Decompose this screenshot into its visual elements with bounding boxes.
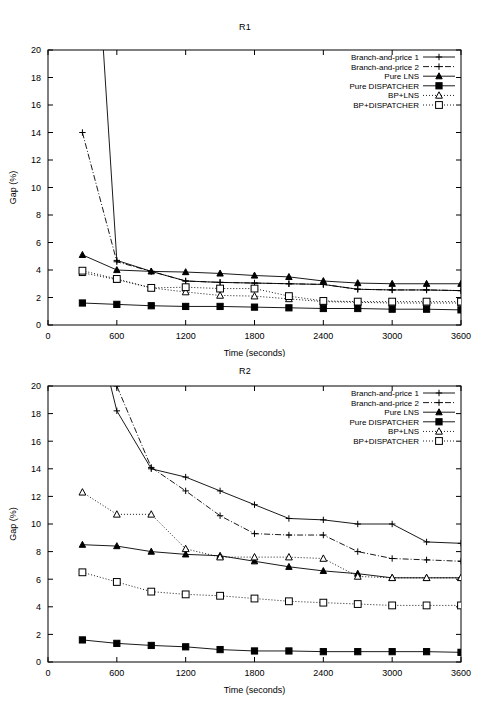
legend-label-3: Pure DISPATCHER	[350, 418, 420, 427]
series-line	[82, 492, 461, 578]
series-2	[79, 251, 464, 286]
y-tick-label: 20	[31, 45, 41, 55]
legend-label-1: Branch-and-price 2	[351, 63, 420, 72]
x-tick-label: 600	[109, 331, 124, 341]
chart-panel-r2: R2 0246810121416182006001200180024003000…	[0, 357, 490, 714]
legend: Branch-and-price 1Branch-and-price 2Pure…	[350, 389, 456, 446]
legend-label-4: BP+LNS	[388, 427, 419, 436]
x-tick-label: 600	[109, 668, 124, 678]
x-tick-label: 1200	[176, 668, 196, 678]
x-tick-label: 3600	[451, 331, 471, 341]
y-tick-label: 8	[36, 210, 41, 220]
y-tick-label: 8	[36, 547, 41, 557]
x-tick-label: 1800	[244, 668, 264, 678]
legend-label-0: Branch-and-price 1	[351, 389, 420, 398]
y-tick-label: 16	[31, 437, 41, 447]
series-5	[79, 569, 464, 609]
series-line	[82, 271, 461, 302]
chart-svg-r1: 0246810121416182006001200180024003000360…	[0, 0, 490, 357]
x-tick-label: 2400	[313, 331, 333, 341]
x-tick-label: 0	[45, 331, 50, 341]
y-tick-label: 10	[31, 519, 41, 529]
legend-label-1: Branch-and-price 2	[351, 399, 420, 408]
x-axis-label: Time (seconds)	[224, 348, 286, 357]
series-line	[82, 640, 461, 652]
x-tick-label: 0	[45, 668, 50, 678]
y-axis-label: Gap (%)	[8, 507, 18, 541]
y-tick-label: 20	[31, 381, 41, 391]
series-line	[82, 303, 461, 310]
series-2	[79, 541, 464, 580]
x-tick-label: 2400	[313, 668, 333, 678]
series-0	[101, 357, 464, 547]
legend-label-5: BP+DISPATCHER	[353, 437, 419, 446]
series-line	[82, 273, 461, 303]
y-tick-label: 2	[36, 293, 41, 303]
x-tick-label: 3000	[382, 331, 402, 341]
x-axis-label: Time (seconds)	[224, 685, 286, 695]
y-axis-label: Gap (%)	[8, 171, 18, 205]
series-4	[79, 269, 464, 306]
series-line	[101, 357, 461, 561]
y-tick-label: 6	[36, 575, 41, 585]
y-tick-label: 14	[31, 464, 41, 474]
legend-label-0: Branch-and-price 1	[351, 53, 420, 62]
y-tick-label: 12	[31, 492, 41, 502]
y-tick-label: 14	[31, 128, 41, 138]
plot-area-r1: 0246810121416182006001200180024003000360…	[0, 0, 490, 357]
series-line	[82, 572, 461, 605]
figure-root: R1 0246810121416182006001200180024003000…	[0, 0, 490, 714]
x-tick-label: 1800	[244, 331, 264, 341]
series-3	[79, 637, 464, 656]
series-line	[82, 545, 461, 578]
y-tick-label: 6	[36, 238, 41, 248]
series-4	[79, 489, 464, 581]
x-tick-label: 1200	[176, 331, 196, 341]
x-tick-label: 3600	[451, 668, 471, 678]
y-tick-label: 16	[31, 100, 41, 110]
chart-svg-r2: 0246810121416182006001200180024003000360…	[0, 357, 490, 714]
x-tick-label: 3000	[382, 668, 402, 678]
series-line	[101, 357, 461, 543]
y-tick-label: 18	[31, 409, 41, 419]
chart-panel-r1: R1 0246810121416182006001200180024003000…	[0, 0, 490, 357]
y-tick-label: 0	[36, 320, 41, 330]
series-5	[79, 267, 464, 305]
legend-label-2: Pure LNS	[384, 72, 419, 81]
legend-label-4: BP+LNS	[388, 91, 419, 100]
series-line	[82, 255, 461, 284]
plot-area-r2: 0246810121416182006001200180024003000360…	[0, 357, 490, 714]
series-line	[82, 133, 461, 291]
y-tick-label: 4	[36, 602, 41, 612]
y-tick-label: 18	[31, 73, 41, 83]
y-tick-label: 4	[36, 265, 41, 275]
legend-label-5: BP+DISPATCHER	[353, 101, 419, 110]
legend: Branch-and-price 1Branch-and-price 2Pure…	[350, 53, 456, 110]
y-tick-label: 12	[31, 155, 41, 165]
series-1	[79, 129, 464, 294]
legend-label-2: Pure LNS	[384, 408, 419, 417]
y-tick-label: 0	[36, 657, 41, 667]
y-tick-label: 2	[36, 630, 41, 640]
legend-label-3: Pure DISPATCHER	[350, 82, 420, 91]
y-tick-label: 10	[31, 183, 41, 193]
